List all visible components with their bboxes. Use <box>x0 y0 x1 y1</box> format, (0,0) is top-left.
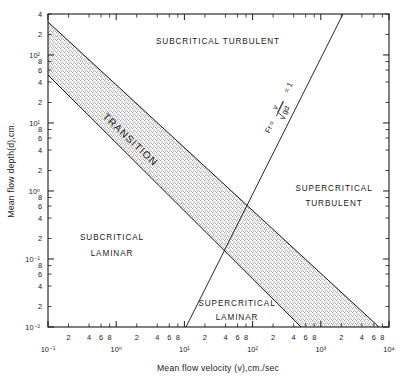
x-tick-label: 10¹ <box>179 345 190 354</box>
y-tick-label: 6 <box>38 134 42 143</box>
x-tick-label: 8 <box>244 333 248 342</box>
x-tick-label: 2 <box>135 333 139 342</box>
x-tick-label: 2 <box>66 333 70 342</box>
x-tick-label: 8 <box>312 333 316 342</box>
region-label-subcritical-laminar-1: SUBCRITICAL <box>80 233 144 242</box>
x-tick-label: 10⁻¹ <box>41 345 56 354</box>
y-tick-label: 6 <box>38 202 42 211</box>
y-tick-label: 6 <box>38 270 42 279</box>
x-tick-label: 10⁰ <box>111 345 122 354</box>
x-tick-label: 2 <box>271 333 275 342</box>
x-axis-title: Mean flow velocity (v),cm./sec <box>157 363 280 373</box>
x-tick-label: 4 <box>223 333 227 342</box>
region-label-supercritical-turbulent-2: TURBULENT <box>305 199 362 208</box>
x-tick-label: 2 <box>203 333 207 342</box>
x-tick-label: 4 <box>87 333 91 342</box>
y-tick-label: 10¹ <box>29 119 40 128</box>
y-tick-label: 6 <box>38 66 42 75</box>
y-tick-label: 10⁰ <box>29 187 40 196</box>
plot-area <box>48 14 389 327</box>
y-tick-label: 2 <box>38 234 42 243</box>
y-tick-label: 4 <box>38 10 42 19</box>
x-tick-label: 10⁴ <box>383 345 394 354</box>
x-tick-label: 8 <box>108 333 112 342</box>
chart-svg: 10⁻¹246810⁰246810¹246810²246810³246810⁴ … <box>0 0 409 383</box>
y-axis-title: Mean flow depth(d),cm. <box>6 122 16 217</box>
flow-regime-chart: 10⁻¹246810⁰246810¹246810²246810³246810⁴ … <box>0 0 409 383</box>
y-axis-tick-labels: 10⁻²246810⁻¹246810⁰246810¹246810²24 <box>25 10 42 332</box>
y-tick-label: 4 <box>38 78 42 87</box>
y-tick-label: 4 <box>38 146 42 155</box>
x-tick-label: 4 <box>292 333 296 342</box>
x-tick-label: 10² <box>247 345 258 354</box>
x-tick-label: 2 <box>339 333 343 342</box>
y-tick-label: 2 <box>38 302 42 311</box>
x-tick-label: 6 <box>99 333 103 342</box>
y-tick-label: 2 <box>38 98 42 107</box>
x-tick-label: 6 <box>167 333 171 342</box>
x-tick-label: 4 <box>360 333 364 342</box>
x-tick-label: 6 <box>235 333 239 342</box>
x-tick-label: 10³ <box>315 345 326 354</box>
region-label-supercritical-laminar-2: LAMINAR <box>216 313 259 322</box>
y-tick-label: 10⁻² <box>25 323 40 332</box>
y-tick-label: 2 <box>38 30 42 39</box>
region-label-supercritical-turbulent-1: SUPERCRITICAL <box>295 184 372 193</box>
y-tick-label: 4 <box>38 282 42 291</box>
y-tick-label: 4 <box>38 214 42 223</box>
x-tick-label: 8 <box>380 333 384 342</box>
x-axis-tick-labels: 10⁻¹246810⁰246810¹246810²246810³246810⁴ <box>41 333 395 354</box>
y-tick-label: 10⁻¹ <box>25 255 40 264</box>
y-tick-label: 2 <box>38 166 42 175</box>
region-label-subcritical-laminar-2: LAMINAR <box>91 249 134 258</box>
x-tick-label: 4 <box>155 333 159 342</box>
y-tick-label: 10² <box>29 51 40 60</box>
x-tick-label: 6 <box>372 333 376 342</box>
region-label-subcritical-turbulent: SUBCRITICAL TURBULENT <box>156 37 280 46</box>
x-tick-label: 8 <box>176 333 180 342</box>
x-tick-label: 6 <box>304 333 308 342</box>
region-label-supercritical-laminar-1: SUPERCRITICAL <box>198 299 275 308</box>
